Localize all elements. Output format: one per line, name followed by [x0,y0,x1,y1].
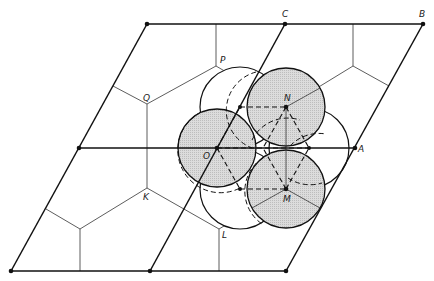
label-n: N [284,93,291,103]
label-p: P [220,55,226,65]
label-c: C [282,9,289,19]
lattice-diagram: C B A O N M P Q K L [0,0,434,281]
label-o: O [203,151,210,161]
label-a: A [357,144,364,154]
label-k: K [143,192,150,202]
label-q: Q [143,93,150,103]
label-b: B [419,9,425,19]
label-m: M [283,194,291,204]
label-l: L [222,230,227,240]
